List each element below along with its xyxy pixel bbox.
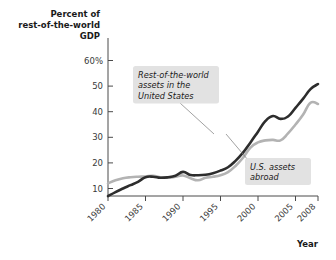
annotation-line-callout-us-assets-0: U.S. assets: [250, 162, 296, 172]
annotation-line-callout-row-assets-0: Rest-of-the-world: [138, 70, 210, 80]
annotation-callout-row-assets: Rest-of-the-worldassets in theUnited Sta…: [133, 66, 219, 104]
y-tick-label-10: 10: [92, 184, 103, 194]
leader-line-callout-row-assets: [180, 103, 214, 134]
x-tick-label-2005: 2005: [273, 201, 295, 223]
y-tick-label-40: 40: [92, 107, 103, 117]
x-tick-label-1985: 1985: [123, 201, 145, 223]
annotation-leader-lines: [180, 103, 248, 160]
annotation-line-callout-row-assets-1: assets in the: [138, 80, 190, 90]
x-axis-title: Year: [296, 239, 319, 249]
y-axis-title-line-1: rest-of-the-world: [18, 20, 100, 30]
x-tick-label-2000: 2000: [235, 201, 257, 223]
x-tick-label-1990: 1990: [160, 201, 182, 223]
y-tick-label-50: 50: [92, 81, 103, 91]
x-tick-label-2008: 2008: [295, 201, 317, 223]
y-tick-label-60: 60%: [84, 56, 103, 66]
annotation-line-callout-row-assets-2: United States: [138, 91, 194, 101]
chart-annotations: Rest-of-the-worldassets in theUnited Sta…: [133, 66, 311, 185]
y-axis-title: Percent ofrest-of-the-worldGDP: [18, 9, 100, 41]
x-tick-label-1980: 1980: [85, 201, 107, 223]
x-axis-tick-labels: 1980198519901995200020052008: [85, 196, 318, 224]
y-axis-tick-labels: 60%5040302010: [84, 56, 113, 194]
chart-figure: Percent ofrest-of-the-worldGDP 60%504030…: [0, 0, 336, 260]
y-tick-label-30: 30: [92, 132, 103, 142]
y-axis-title-line-0: Percent of: [50, 9, 100, 19]
line-chart: Percent ofrest-of-the-worldGDP 60%504030…: [0, 0, 336, 260]
y-tick-label-20: 20: [92, 158, 103, 168]
x-axis-title-label: Year: [296, 239, 319, 249]
annotation-line-callout-us-assets-1: abroad: [250, 172, 280, 182]
leader-line-callout-us-assets: [226, 134, 248, 160]
y-axis-title-line-2: GDP: [80, 31, 100, 41]
x-tick-label-1995: 1995: [198, 201, 220, 223]
annotation-callout-us-assets: U.S. assetsabroad: [245, 158, 311, 185]
